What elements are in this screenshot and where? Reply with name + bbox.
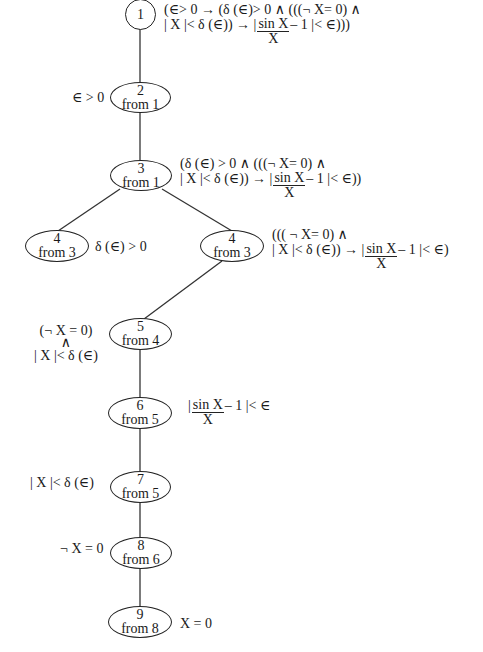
fraction: sin XX xyxy=(365,242,397,271)
node-4-right: 4 from 3 xyxy=(200,230,264,262)
node-7: 7 from 5 xyxy=(110,471,171,503)
node-4-left: 4 from 3 xyxy=(25,230,89,262)
node-5: 5 from 4 xyxy=(109,318,172,350)
edge-3-4a xyxy=(58,189,120,231)
edge-4b-5 xyxy=(144,261,222,319)
formula-node-6: |sin XX– 1 |< ∈ xyxy=(188,398,270,427)
node-8: 8 from 6 xyxy=(110,537,172,569)
formula-node-1: (∈> 0 → (δ (∈)> 0 ∧ (((¬ X= 0) ∧ | X |< … xyxy=(164,2,361,46)
node-9: 9 from 8 xyxy=(108,606,172,638)
formula-node-5: (¬ X = 0) ∧ | X |< δ (∈) xyxy=(34,323,98,363)
fraction: sin XX xyxy=(273,171,305,200)
node-number: 1 xyxy=(137,8,144,22)
fraction: sin XX xyxy=(257,17,289,46)
formula-node-4-right: ((( ¬ X= 0) ∧ | X |< δ (∈)) → |sin XX– 1… xyxy=(272,227,449,271)
node-3: 3 from 1 xyxy=(110,160,172,191)
formula-node-4-left: δ (∈) > 0 xyxy=(95,239,147,254)
node-2: 2 from 1 xyxy=(110,82,171,113)
node-6: 6 from 5 xyxy=(108,397,172,429)
formula-node-3: (δ (∈) > 0 ∧ (((¬ X= 0) ∧ | X |< δ (∈)) … xyxy=(180,156,361,200)
formula-node-9: X = 0 xyxy=(180,616,212,631)
formula-node-8: ¬ X = 0 xyxy=(60,541,103,556)
formula-node-2: ∈ > 0 xyxy=(72,90,104,105)
fraction: sin XX xyxy=(192,398,224,427)
node-1: 1 xyxy=(125,0,156,30)
formula-node-7: | X |< δ (∈) xyxy=(30,475,94,490)
